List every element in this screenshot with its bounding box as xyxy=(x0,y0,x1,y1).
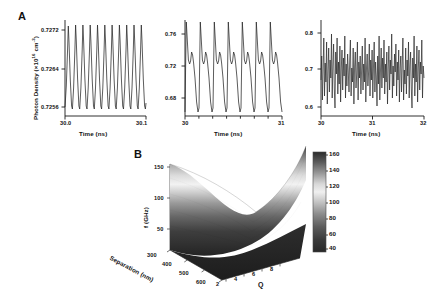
trace-a1 xyxy=(65,25,146,109)
x-ticks-a2 xyxy=(185,116,282,120)
subplot-a2: 0.76 0.72 0.68 30 31 Time (ns) xyxy=(152,8,292,138)
subplot-a3: 0.8 0.7 0.6 30 31 32 Time (ns) xyxy=(292,8,439,138)
colorbar-tick-4: 80 xyxy=(329,214,336,221)
axis-title-photon-density-units: (×1016 cm-3) xyxy=(32,36,39,73)
xtick-b-2: 6 xyxy=(252,271,255,277)
ytick-a1-0: 0.7272 xyxy=(41,27,59,33)
xtick-b-3: 8 xyxy=(270,266,273,272)
figure-canvas: A Photon Density (×1016 cm-3) 0.7272 0.7… xyxy=(0,0,439,299)
plot-svg-a1 xyxy=(0,8,152,138)
axis-title-q: Q xyxy=(258,281,264,288)
x-ticks-a1 xyxy=(65,116,146,120)
axis-title-time-a3: Time (ns) xyxy=(352,130,380,137)
xtick-a2-1: 31 xyxy=(278,120,284,126)
ytick-b-0: 300 xyxy=(147,252,157,258)
xtick-a2-0: 30 xyxy=(182,120,188,126)
xtick-a1-1: 30.1 xyxy=(136,120,147,126)
colorbar-tick-2: 120 xyxy=(329,182,339,189)
xtick-b-0: 2 xyxy=(216,281,219,287)
colorbar-b xyxy=(313,152,326,252)
ztick-b-1: 100 xyxy=(154,195,164,201)
axis-title-time-a1: Time (ns) xyxy=(79,130,107,137)
y-ticks-a1 xyxy=(62,30,66,107)
y-ticks-a3 xyxy=(318,33,322,107)
ytick-a3-1: 0.7 xyxy=(305,66,313,72)
axis-title-time-a2: Time (ns) xyxy=(214,130,242,137)
axis-title-photon-density-text: Photon Density xyxy=(32,73,39,120)
subplot-b-surface: f (GHz) 150 100 50 300 400 500 600 Separ… xyxy=(100,150,330,299)
xtick-b-1: 4 xyxy=(234,276,237,282)
ytick-a1-1: 0.7264 xyxy=(41,66,59,72)
ytick-b-3: 600 xyxy=(196,279,206,285)
x-ticks-a3 xyxy=(321,116,424,120)
ytick-a2-2: 0.68 xyxy=(165,95,176,101)
ytick-a1-2: 0.7256 xyxy=(41,104,59,110)
ytick-b-2: 500 xyxy=(179,270,189,276)
subplot-a1: Photon Density (×1016 cm-3) 0.7272 0.726… xyxy=(0,8,152,138)
colorbar-tick-1: 140 xyxy=(329,166,339,173)
plot-svg-a3 xyxy=(292,8,439,138)
trace-a2 xyxy=(185,22,282,112)
xtick-a3-1: 31 xyxy=(369,120,375,126)
ytick-a3-0: 0.8 xyxy=(305,30,313,36)
xtick-a1-0: 30.0 xyxy=(60,120,71,126)
colorbar-tick-3: 100 xyxy=(329,198,339,205)
z-ticks-b xyxy=(167,167,170,229)
ytick-a2-0: 0.76 xyxy=(165,31,176,37)
plot-svg-a2 xyxy=(152,8,292,138)
ztick-b-2: 50 xyxy=(157,226,163,232)
y-ticks-a2 xyxy=(182,34,186,98)
xtick-a3-2: 32 xyxy=(420,120,426,126)
colorbar-tick-0: 160 xyxy=(329,150,339,157)
plot-svg-b xyxy=(100,150,330,299)
axis-title-photon-density: Photon Density (×1016 cm-3) xyxy=(31,36,39,120)
xtick-a3-0: 30 xyxy=(318,120,324,126)
ytick-a2-1: 0.72 xyxy=(165,63,176,69)
ytick-b-1: 400 xyxy=(162,261,172,267)
trace-a3 xyxy=(321,34,424,108)
ztick-b-0: 150 xyxy=(154,164,164,170)
colorbar-tick-5: 60 xyxy=(329,230,336,237)
axis-title-f-ghz: f (GHz) xyxy=(142,207,149,228)
colorbar-tick-6: 40 xyxy=(329,244,336,251)
ytick-a3-2: 0.6 xyxy=(305,104,313,110)
